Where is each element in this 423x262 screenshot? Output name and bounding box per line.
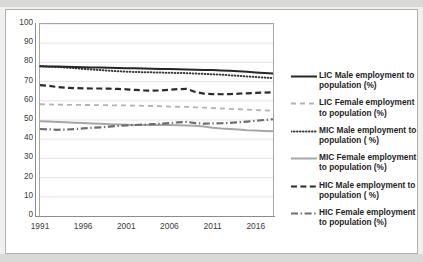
legend-label: HIC Male employment to population ( %) bbox=[319, 180, 419, 200]
legend-item[interactable]: MIC Male employment to population ( %) bbox=[291, 125, 419, 145]
y-tick-label: 90 bbox=[7, 38, 33, 46]
series-line bbox=[40, 85, 273, 94]
screenshot-root: 1009080706050403020100 19911996200120062… bbox=[0, 0, 423, 262]
x-axis-line bbox=[35, 216, 275, 217]
chart-container: 1009080706050403020100 19911996200120062… bbox=[5, 9, 418, 254]
y-tick-label: 60 bbox=[7, 96, 33, 104]
y-tick-label: 30 bbox=[7, 153, 33, 161]
legend-label: LIC Female employment to population (%) bbox=[319, 97, 419, 117]
legend-line-swatch bbox=[291, 71, 317, 82]
page-bottom-band bbox=[0, 254, 423, 262]
plot-area bbox=[39, 23, 274, 217]
x-tick-label: 2001 bbox=[117, 221, 136, 231]
legend-item[interactable]: HIC Female employment to population (%) bbox=[291, 207, 419, 227]
x-tick-label: 1996 bbox=[74, 221, 93, 231]
y-tick-label: 100 bbox=[7, 19, 33, 27]
page-top-band bbox=[0, 0, 423, 7]
y-tick-label: 20 bbox=[7, 173, 33, 181]
y-tick-label: 70 bbox=[7, 77, 33, 85]
y-tick-label: 80 bbox=[7, 57, 33, 65]
x-axis-tick-labels: 199119962001200620112016 bbox=[39, 221, 275, 235]
chart-legend: LIC Male employment to population (%)LIC… bbox=[291, 70, 419, 234]
legend-line-swatch bbox=[291, 98, 317, 109]
y-tick-label: 10 bbox=[7, 192, 33, 200]
series-lines bbox=[40, 24, 273, 216]
legend-line-swatch bbox=[291, 153, 317, 164]
y-axis-tick-labels: 1009080706050403020100 bbox=[6, 23, 33, 217]
legend-label: MIC Male employment to population ( %) bbox=[319, 125, 419, 145]
y-tick-label: 50 bbox=[7, 115, 33, 123]
y-axis-line bbox=[35, 23, 36, 217]
x-tick-label: 1991 bbox=[31, 221, 50, 231]
y-tick-label: 0 bbox=[7, 211, 33, 219]
legend-label: MIC Female employment to population (%) bbox=[319, 152, 419, 172]
legend-label: HIC Female employment to population (%) bbox=[319, 207, 419, 227]
series-line bbox=[40, 104, 273, 111]
legend-item[interactable]: LIC Female employment to population (%) bbox=[291, 97, 419, 117]
legend-line-swatch bbox=[291, 181, 317, 192]
x-tick-label: 2011 bbox=[204, 221, 222, 231]
y-tick-label: 40 bbox=[7, 134, 33, 142]
legend-label: LIC Male employment to population (%) bbox=[319, 70, 419, 90]
legend-line-swatch bbox=[291, 208, 317, 219]
legend-line-swatch bbox=[291, 126, 317, 137]
series-line bbox=[40, 121, 273, 131]
legend-item[interactable]: MIC Female employment to population (%) bbox=[291, 152, 419, 172]
x-tick-label: 2016 bbox=[246, 221, 265, 231]
legend-item[interactable]: HIC Male employment to population ( %) bbox=[291, 180, 419, 200]
x-tick-label: 2006 bbox=[160, 221, 179, 231]
legend-item[interactable]: LIC Male employment to population (%) bbox=[291, 70, 419, 90]
